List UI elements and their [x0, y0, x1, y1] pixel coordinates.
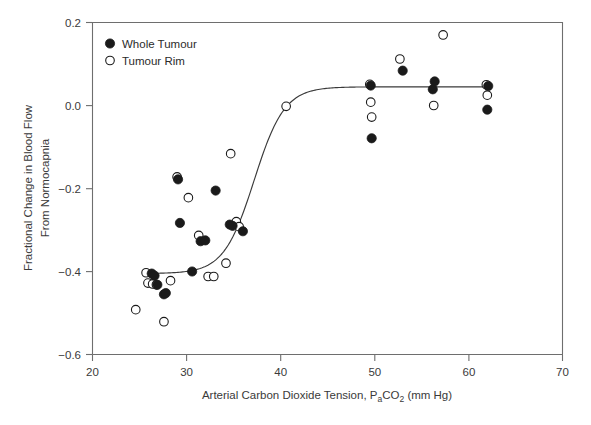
data-point [367, 113, 376, 122]
data-point [184, 193, 193, 202]
y-axis-title-line1: Fractional Change in Blood Flow [22, 104, 34, 271]
legend-marker-tumour-rim [106, 56, 115, 65]
data-point [398, 66, 407, 75]
data-point [131, 305, 140, 314]
data-point [439, 31, 448, 40]
data-point [161, 288, 170, 297]
data-point [226, 149, 235, 158]
y-axis-title-line2: From Normocapnia [39, 138, 51, 237]
y-tick-label-4: −0.6 [58, 349, 81, 361]
data-point [396, 55, 405, 64]
figure-container: 0.2 0.0 −0.2 −0.4 −0.6 20 30 40 50 60 70… [0, 0, 591, 425]
x-axis-title-pre: Arterial Carbon Dioxide Tension, P [202, 389, 378, 401]
data-point [209, 272, 218, 281]
data-point [367, 134, 376, 143]
x-tick-label-0: 20 [86, 366, 99, 378]
data-point [484, 81, 493, 90]
data-point [282, 102, 291, 111]
x-ticks: 20 30 40 50 60 70 [86, 355, 569, 379]
x-tick-label-2: 40 [274, 366, 287, 378]
x-tick-label-1: 30 [180, 366, 193, 378]
data-point [429, 101, 438, 110]
y-ticks: 0.2 0.0 −0.2 −0.4 −0.6 [58, 17, 92, 361]
data-point [366, 98, 375, 107]
y-tick-label-1: 0.0 [65, 100, 81, 112]
x-axis-title: Arterial Carbon Dioxide Tension, PaCO2 (… [202, 389, 452, 404]
x-tick-label-4: 60 [463, 366, 476, 378]
series-whole-tumour [147, 66, 493, 299]
y-axis-title: Fractional Change in Blood Flow From Nor… [22, 104, 51, 271]
x-tick-label-5: 70 [556, 366, 569, 378]
data-point [238, 227, 247, 236]
data-point [173, 175, 182, 184]
legend-label-tumour-rim: Tumour Rim [122, 55, 185, 67]
data-point [222, 259, 231, 268]
data-point [175, 218, 184, 227]
data-point [201, 236, 210, 245]
y-tick-label-2: −0.2 [58, 183, 81, 195]
data-point [483, 91, 492, 100]
data-point [430, 77, 439, 86]
data-point [160, 317, 169, 326]
x-axis-title-mid: CO [382, 389, 399, 401]
data-point [188, 267, 197, 276]
x-axis-title-post: (mm Hg) [404, 389, 452, 401]
data-point [228, 221, 237, 230]
series-tumour-rim [131, 31, 491, 326]
data-point [211, 186, 220, 195]
scatter-plot: 0.2 0.0 −0.2 −0.4 −0.6 20 30 40 50 60 70… [0, 0, 591, 425]
data-point [150, 271, 159, 280]
axes-frame [93, 22, 564, 355]
x-tick-label-3: 50 [368, 366, 381, 378]
legend-marker-whole-tumour [105, 39, 114, 48]
data-point [483, 105, 492, 114]
data-point [366, 81, 375, 90]
legend: Whole Tumour Tumour Rim [105, 38, 197, 67]
y-tick-label-0: 0.2 [65, 17, 81, 29]
sigmoid-fit-curve [143, 87, 490, 274]
data-point [166, 276, 175, 285]
legend-label-whole-tumour: Whole Tumour [122, 38, 197, 50]
data-point [153, 280, 162, 289]
y-tick-label-3: −0.4 [58, 266, 81, 278]
